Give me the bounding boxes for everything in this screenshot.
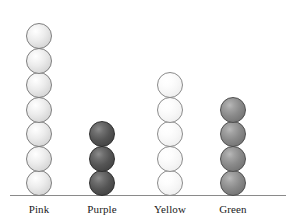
sphere-unit: [157, 146, 183, 172]
category-label-pink: Pink: [12, 203, 66, 216]
ball-stack-pink: [12, 25, 66, 197]
column-yellow: Yellow: [143, 0, 197, 220]
sphere-unit: [26, 72, 52, 98]
plot-area: Pink Purple Yellow Green: [0, 0, 291, 220]
sphere-unit: [157, 97, 183, 123]
sphere-unit: [157, 170, 183, 196]
sphere-unit: [26, 97, 52, 123]
sphere-unit: [26, 170, 52, 196]
sphere-unit: [220, 121, 246, 147]
category-label-purple: Purple: [75, 203, 129, 216]
ball-stack-yellow: [143, 74, 197, 197]
ball-stack-purple: [75, 123, 129, 197]
sphere-unit: [157, 72, 183, 98]
sphere-unit: [26, 146, 52, 172]
ball-stack-green: [206, 98, 260, 196]
sphere-unit: [220, 146, 246, 172]
sphere-unit: [89, 170, 115, 196]
category-label-green: Green: [206, 203, 260, 216]
sphere-unit: [26, 23, 52, 49]
pictograph-chart: Pink Purple Yellow Green: [0, 0, 291, 220]
sphere-unit: [220, 97, 246, 123]
category-label-yellow: Yellow: [143, 203, 197, 216]
sphere-unit: [220, 170, 246, 196]
column-pink: Pink: [12, 0, 66, 220]
sphere-unit: [26, 48, 52, 74]
sphere-unit: [89, 121, 115, 147]
sphere-unit: [26, 121, 52, 147]
sphere-unit: [89, 146, 115, 172]
column-purple: Purple: [75, 0, 129, 220]
sphere-unit: [157, 121, 183, 147]
column-green: Green: [206, 0, 260, 220]
